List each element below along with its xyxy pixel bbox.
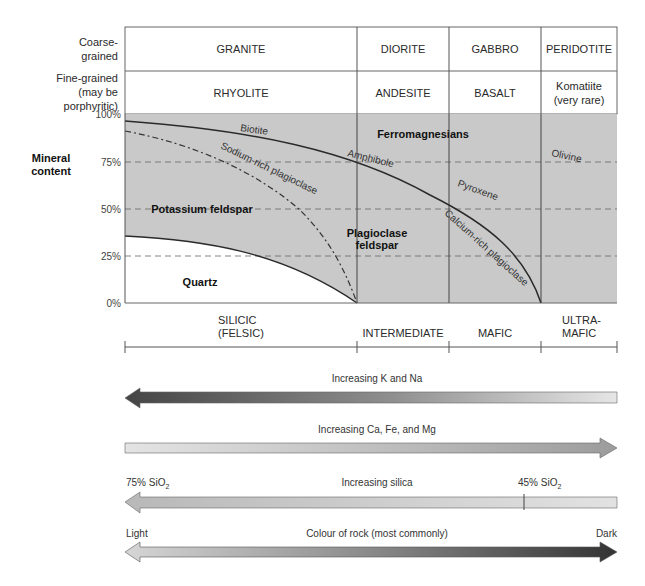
silica-75-label: 75% SiO2 <box>126 477 169 490</box>
arrow-k-na <box>125 388 617 408</box>
y-axis-title-2: content <box>31 165 71 177</box>
rock-andesite: ANDESITE <box>375 87 430 99</box>
class-silicic-2: (FELSIC) <box>218 327 264 339</box>
y-tick-25: 25% <box>101 251 121 262</box>
arrow-silica-label: Increasing silica <box>341 477 413 488</box>
composition-scale <box>125 341 617 353</box>
class-ultramafic: ULTRA- <box>562 314 601 326</box>
fine-grained-label-2: (may be <box>78 86 118 98</box>
rock-rhyolite: RHYOLITE <box>213 87 268 99</box>
y-tick-75: 75% <box>101 157 121 168</box>
rock-diorite: DIORITE <box>381 43 426 55</box>
region-potassium-feldspar: Potassium feldspar <box>151 203 253 215</box>
y-tick-100: 100% <box>95 109 121 120</box>
y-tick-0: 0% <box>107 298 122 309</box>
rock-gabbro: GABBRO <box>471 43 519 55</box>
class-mafic: MAFIC <box>478 327 512 339</box>
class-ultramafic-2: MAFIC <box>562 327 596 339</box>
y-axis-title: Mineral <box>32 152 71 164</box>
region-ferromagnesians: Ferromagnesians <box>377 128 469 140</box>
igneous-rock-diagram: Coarse- grained Fine-grained (may be por… <box>0 0 645 586</box>
region-plagioclase-2: feldspar <box>356 239 400 251</box>
arrow-colour <box>125 542 617 562</box>
rock-granite: GRANITE <box>217 43 266 55</box>
rock-name-table <box>125 27 617 114</box>
arrow-k-na-label: Increasing K and Na <box>332 373 423 384</box>
arrow-ca-fe-mg-label: Increasing Ca, Fe, and Mg <box>318 424 436 435</box>
region-quartz: Quartz <box>183 276 218 288</box>
y-tick-50: 50% <box>101 204 121 215</box>
class-silicic: SILICIC <box>218 314 257 326</box>
colour-light-label: Light <box>126 528 148 539</box>
rock-komatiite-note: (very rare) <box>554 94 605 106</box>
fine-grained-label: Fine-grained <box>56 72 118 84</box>
rock-peridotite: PERIDOTITE <box>546 43 612 55</box>
silica-45-label: 45% SiO2 <box>518 477 561 490</box>
coarse-grained-label-2: grained <box>81 50 118 62</box>
region-plagioclase: Plagioclase <box>347 227 408 239</box>
arrow-colour-label: Colour of rock (most commonly) <box>306 528 448 539</box>
coarse-grained-label: Coarse- <box>79 36 118 48</box>
arrow-ca-fe-mg <box>125 438 617 458</box>
rock-basalt: BASALT <box>474 87 516 99</box>
colour-dark-label: Dark <box>596 528 618 539</box>
class-intermediate: INTERMEDIATE <box>362 327 443 339</box>
rock-komatiite: Komatiite <box>556 80 602 92</box>
arrow-silica <box>125 492 617 513</box>
